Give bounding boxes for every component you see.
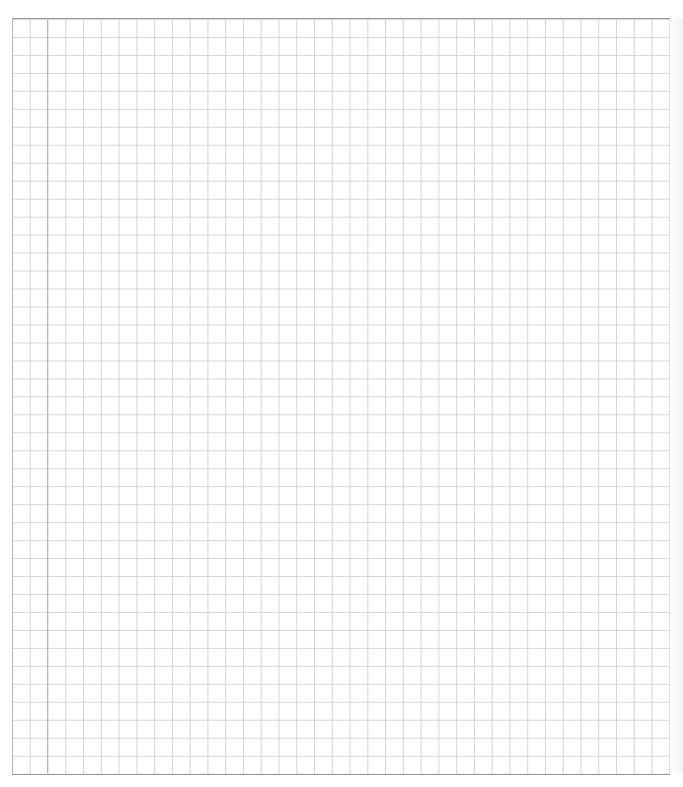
page-edge-shadow bbox=[670, 18, 683, 773]
left-edge-line bbox=[12, 18, 13, 773]
graph-paper-grid bbox=[12, 18, 670, 775]
margin-line bbox=[47, 18, 48, 773]
